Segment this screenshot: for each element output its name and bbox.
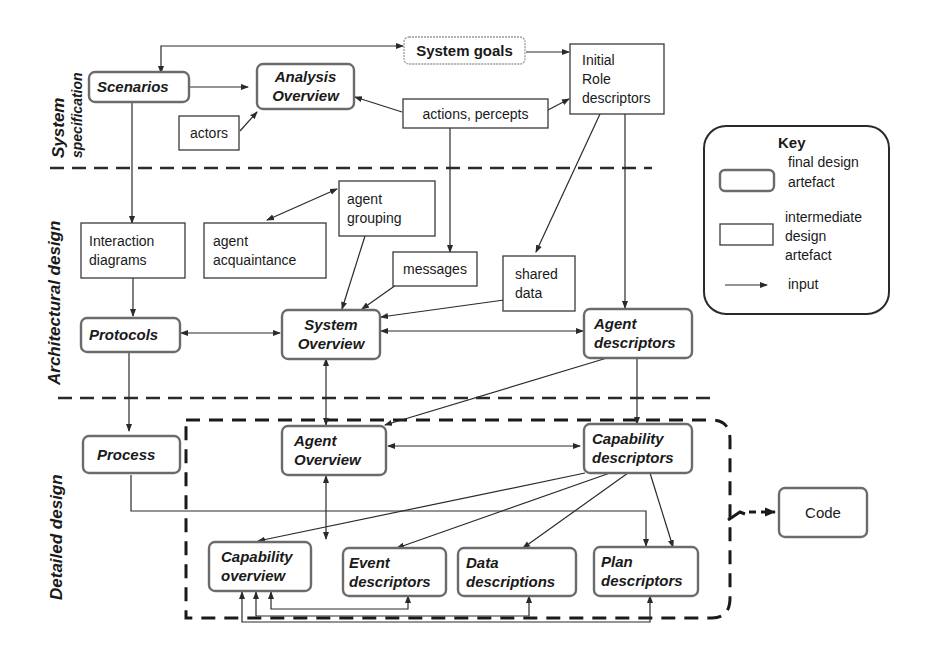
node-label: Analysis	[274, 68, 337, 85]
node-box	[503, 256, 575, 311]
legend-final-swatch	[720, 170, 774, 191]
node-label: acquaintance	[213, 252, 297, 268]
edge-actions-initial-role	[548, 99, 569, 110]
section-label-line: System	[49, 98, 68, 158]
node-protocols: Protocols	[81, 318, 180, 352]
node-label: grouping	[347, 210, 402, 226]
node-label: System goals	[416, 42, 513, 59]
node-label: descriptors	[582, 90, 650, 106]
legend-intermediate-label: artefact	[785, 247, 832, 263]
node-label: diagrams	[89, 252, 147, 268]
node-actions-percepts: actions, percepts	[403, 99, 548, 128]
edge-grouping-acquaintance	[267, 189, 337, 220]
node-label: agent	[213, 233, 248, 249]
node-label: descriptors	[601, 572, 683, 589]
node-initial-role-descriptors: InitialRoledescriptors	[570, 44, 664, 114]
node-data-descriptions: Datadescriptions	[458, 548, 576, 596]
edge-capdesc-capability-overview	[258, 473, 585, 541]
node-capability-overview: Capabilityoverview	[209, 542, 311, 591]
section-label-detailed-design: Detailed design	[47, 474, 66, 600]
node-label: System	[304, 316, 357, 333]
node-label: Overview	[298, 335, 366, 352]
node-shared-data: shareddata	[503, 256, 575, 311]
edge-process-plan-descriptors	[131, 475, 646, 546]
node-label: messages	[403, 261, 467, 277]
legend-final-label: final design	[788, 154, 859, 170]
legend-intermediate-label: design	[785, 228, 826, 244]
node-label: Capability	[592, 430, 664, 447]
node-box	[204, 223, 326, 278]
node-label: Role	[582, 71, 611, 87]
node-label: Initial	[582, 52, 615, 68]
node-label: Data	[466, 554, 499, 571]
node-agent-overview: AgentOverview	[282, 426, 386, 475]
node-actors: actors	[179, 116, 239, 150]
node-agent-grouping: agentgrouping	[339, 181, 435, 236]
node-label: Protocols	[89, 326, 158, 343]
node-label: Scenarios	[97, 78, 169, 95]
legend-title: Key	[778, 134, 806, 151]
node-plan-descriptors: Plandescriptors	[594, 547, 698, 596]
node-label: actors	[190, 125, 228, 141]
edge-actors-analysis-overview	[240, 112, 257, 131]
node-label: descriptors	[592, 449, 674, 466]
node-label: Agent	[593, 315, 638, 332]
edge-capdesc-plan-descriptors	[650, 473, 673, 547]
node-label: Event	[349, 554, 391, 571]
node-label: overview	[221, 567, 287, 584]
edge-actions-analysis-overview	[355, 97, 402, 112]
node-agent-descriptors: Agentdescriptors	[584, 309, 692, 358]
node-system-goals: System goals	[404, 37, 525, 64]
node-label: Plan	[601, 553, 633, 570]
node-process: Process	[83, 436, 180, 473]
node-capability-descriptors: Capabilitydescriptors	[584, 424, 692, 473]
edge-shared-data-system-overview	[381, 300, 504, 317]
node-system-overview: SystemOverview	[282, 310, 380, 359]
legend: Key final design artefact intermediate d…	[704, 126, 889, 314]
node-label: descriptors	[349, 573, 431, 590]
edge-agent-descriptors-agent-overview	[385, 358, 607, 425]
legend-final-label: artefact	[788, 174, 835, 190]
node-scenarios: Scenarios	[89, 72, 189, 102]
node-label: Process	[97, 446, 155, 463]
node-label: Agent	[293, 432, 338, 449]
node-analysis-overview: AnalysisOverview	[257, 64, 354, 109]
prometheus-methodology-diagram: System specification Architectural desig…	[0, 0, 935, 650]
legend-intermediate-label: intermediate	[785, 209, 862, 225]
node-label: descriptions	[466, 573, 555, 590]
node-label: Interaction	[89, 233, 154, 249]
node-box	[339, 181, 435, 236]
node-interaction-diagrams: Interactiondiagrams	[81, 223, 185, 278]
edge-grouping-system-overview	[342, 236, 365, 309]
edge-messages-system-overview	[362, 285, 396, 309]
node-label: shared	[515, 266, 558, 282]
node-event-descriptors: Eventdescriptors	[343, 548, 446, 596]
node-label: Overview	[294, 451, 362, 468]
legend-intermediate-swatch	[720, 224, 773, 245]
node-label: data	[515, 285, 542, 301]
node-label: Capability	[221, 548, 293, 565]
edge-initial-role-shared-data	[536, 114, 600, 252]
node-label: Code	[805, 504, 841, 521]
node-box	[81, 223, 185, 278]
node-agent-acquaintance: agentacquaintance	[204, 223, 326, 278]
section-label-line: specification	[69, 72, 85, 158]
node-label: Overview	[272, 87, 340, 104]
node-label: agent	[347, 191, 382, 207]
node-label: descriptors	[594, 334, 676, 351]
section-label-architectural-design: Architectural design	[45, 221, 64, 386]
node-messages: messages	[393, 252, 477, 286]
legend-input-label: input	[788, 276, 818, 292]
section-label-system-specification: System specification	[49, 72, 85, 158]
node-label: actions, percepts	[423, 106, 529, 122]
node-code: Code	[779, 488, 867, 537]
